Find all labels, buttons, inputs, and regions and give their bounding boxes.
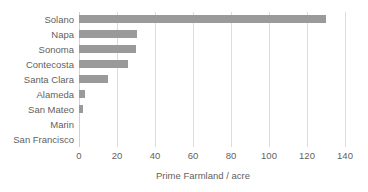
plot-area: [79, 12, 345, 147]
bar: [79, 30, 137, 38]
x-tick-label: 80: [226, 150, 237, 162]
bar: [79, 75, 108, 83]
bar: [79, 60, 128, 68]
category-label: San Mateo: [28, 102, 74, 117]
category-label: Contecosta: [26, 57, 74, 72]
gridline: [345, 12, 346, 147]
bar: [79, 15, 326, 23]
bar: [79, 105, 83, 113]
bar-row: [79, 57, 345, 72]
bar-row: [79, 72, 345, 87]
x-tick-label: 40: [150, 150, 161, 162]
bar: [79, 90, 85, 98]
bar-row: [79, 12, 345, 27]
x-tick-label: 120: [299, 150, 315, 162]
x-axis-title: Prime Farmland / acre: [0, 170, 368, 181]
x-tick-label: 140: [337, 150, 353, 162]
value-axis-ticks: 020406080100120140: [79, 150, 345, 164]
category-label: Solano: [44, 12, 74, 27]
bar: [79, 45, 136, 53]
bar-row: [79, 87, 345, 102]
bar-series: [79, 12, 345, 147]
category-label: Santa Clara: [24, 72, 74, 87]
bar-chart: SolanoNapaSonomaContecostaSanta ClaraAla…: [0, 0, 368, 192]
x-tick-label: 0: [76, 150, 81, 162]
x-tick-label: 100: [261, 150, 277, 162]
x-tick-label: 20: [112, 150, 123, 162]
category-label: San Francisco: [13, 132, 74, 147]
x-tick-label: 60: [188, 150, 199, 162]
bar-row: [79, 132, 345, 147]
category-label: Napa: [51, 27, 74, 42]
bar-row: [79, 102, 345, 117]
bar-row: [79, 27, 345, 42]
bar-row: [79, 42, 345, 57]
category-label: Alameda: [37, 87, 75, 102]
bar-row: [79, 117, 345, 132]
category-label: Sonoma: [39, 42, 74, 57]
x-axis-title-text: Prime Farmland / acre: [156, 170, 250, 181]
category-label: Marin: [50, 117, 74, 132]
category-axis-labels: SolanoNapaSonomaContecostaSanta ClaraAla…: [0, 12, 74, 147]
